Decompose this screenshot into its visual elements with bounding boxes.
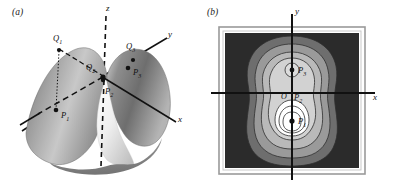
axis-label-y: y <box>168 29 172 39</box>
axis-label-z: z <box>106 3 110 13</box>
panel-a-surface: (a) <box>0 0 199 186</box>
label-origin: O <box>281 92 287 101</box>
surface-svg <box>0 0 199 186</box>
figure-root: (a) <box>0 0 398 186</box>
panel-b-contour: (b) <box>199 0 398 186</box>
label-P1: P1 <box>298 116 306 128</box>
left-lobe <box>26 48 107 165</box>
point-P3-dot <box>126 66 131 71</box>
label-P1: P1 <box>61 110 69 122</box>
label-P3: P3 <box>298 65 306 77</box>
axis-label-y: y <box>295 6 299 16</box>
label-Q1: Q1 <box>53 33 62 45</box>
label-Q2: Q2 <box>86 62 95 74</box>
label-P2: P2 <box>105 86 113 98</box>
label-P3: P3 <box>133 67 141 79</box>
surface-body <box>26 48 170 175</box>
point-P2-dot <box>101 78 105 82</box>
axis-label-x: x <box>373 92 377 102</box>
point-Q3-dot <box>131 58 135 62</box>
axis-label-x: x <box>178 114 182 124</box>
label-Q3: Q3 <box>126 41 135 53</box>
point-P1-dot <box>289 118 294 123</box>
point-P1-dot <box>54 108 59 113</box>
point-Q1-dot <box>57 48 61 52</box>
point-P3-dot <box>290 68 295 73</box>
label-P2: P2 <box>294 92 302 104</box>
